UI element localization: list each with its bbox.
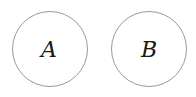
node-a: A <box>13 12 88 87</box>
node-b: B <box>112 12 187 87</box>
node-b-label: B <box>140 37 157 62</box>
node-a-label: A <box>39 37 57 62</box>
diagram-canvas: A B <box>0 0 196 97</box>
